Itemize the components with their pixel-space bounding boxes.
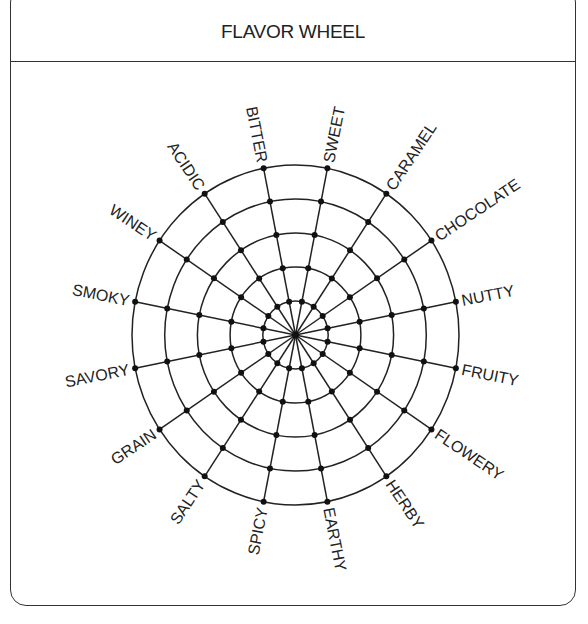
node-fruity-5 <box>453 365 459 371</box>
node-smoky-4 <box>164 305 170 311</box>
node-caramel-4 <box>365 219 371 225</box>
label-flowery: FLOWERY <box>432 426 507 484</box>
node-fruity-3 <box>389 352 395 358</box>
node-salty-2 <box>256 389 262 395</box>
node-nutty-2 <box>357 319 363 325</box>
label-acidic: ACIDIC <box>164 139 208 194</box>
node-herby-2 <box>329 389 335 395</box>
node-nutty-4 <box>421 305 427 311</box>
node-salty-3 <box>238 417 244 423</box>
node-fruity-2 <box>357 345 363 351</box>
node-sweet-5 <box>324 165 330 171</box>
label-caramel: CARAMEL <box>383 120 440 194</box>
node-savory-5 <box>132 365 138 371</box>
node-chocolate-4 <box>401 256 407 262</box>
node-winey-3 <box>211 275 217 281</box>
node-acidic-3 <box>238 247 244 253</box>
node-earthy-4 <box>318 465 324 471</box>
node-smoky-3 <box>196 312 202 318</box>
node-earthy-3 <box>312 432 318 438</box>
node-earthy-5 <box>324 499 330 505</box>
node-bitter-1 <box>286 299 292 305</box>
node-herby-1 <box>311 360 317 366</box>
label-savory: SAVORY <box>64 361 132 390</box>
node-savory-2 <box>228 345 234 351</box>
node-savory-4 <box>164 359 170 365</box>
node-winey-4 <box>184 256 190 262</box>
center-hub <box>292 332 299 339</box>
label-spicy: SPICY <box>245 506 271 557</box>
flavor-wheel: BITTERSWEETCARAMELCHOCOLATENUTTYFRUITYFL… <box>0 0 588 624</box>
label-nutty: NUTTY <box>460 282 516 309</box>
node-salty-1 <box>274 360 280 366</box>
node-nutty-3 <box>389 312 395 318</box>
node-caramel-5 <box>383 191 389 197</box>
label-herby: HERBY <box>383 477 428 533</box>
node-salty-4 <box>220 445 226 451</box>
node-winey-2 <box>238 294 244 300</box>
node-chocolate-1 <box>320 313 326 319</box>
node-savory-1 <box>260 339 266 345</box>
node-bitter-4 <box>267 199 273 205</box>
node-herby-5 <box>383 473 389 479</box>
node-flowery-2 <box>347 370 353 376</box>
node-flowery-1 <box>320 351 326 357</box>
node-acidic-4 <box>220 219 226 225</box>
node-acidic-1 <box>274 304 280 310</box>
node-earthy-1 <box>299 365 305 371</box>
label-grain: GRAIN <box>108 426 160 468</box>
node-flowery-5 <box>428 426 434 432</box>
node-chocolate-3 <box>374 275 380 281</box>
node-herby-3 <box>347 417 353 423</box>
node-salty-5 <box>202 473 208 479</box>
node-sweet-1 <box>299 299 305 305</box>
node-flowery-4 <box>401 408 407 414</box>
node-smoky-1 <box>260 325 266 331</box>
node-sweet-3 <box>312 232 318 238</box>
node-smoky-5 <box>132 299 138 305</box>
node-earthy-2 <box>305 399 311 405</box>
label-salty: SALTY <box>167 476 209 527</box>
node-chocolate-5 <box>428 238 434 244</box>
node-spicy-3 <box>273 432 279 438</box>
node-spicy-1 <box>286 365 292 371</box>
node-winey-5 <box>157 238 163 244</box>
node-grain-2 <box>238 370 244 376</box>
label-smoky: SMOKY <box>71 281 131 309</box>
node-sweet-2 <box>305 265 311 271</box>
label-sweet: SWEET <box>320 105 348 164</box>
label-fruity: FRUITY <box>460 361 520 389</box>
node-fruity-1 <box>325 339 331 345</box>
node-caramel-2 <box>329 275 335 281</box>
node-acidic-5 <box>202 191 208 197</box>
node-chocolate-2 <box>347 294 353 300</box>
node-savory-3 <box>196 352 202 358</box>
label-earthy: EARTHY <box>320 506 349 573</box>
node-grain-4 <box>184 408 190 414</box>
label-bitter: BITTER <box>243 105 271 164</box>
node-nutty-1 <box>325 325 331 331</box>
node-caramel-1 <box>311 304 317 310</box>
node-fruity-4 <box>421 359 427 365</box>
node-winey-1 <box>265 313 271 319</box>
label-winey: WINEY <box>106 201 159 244</box>
node-nutty-5 <box>453 299 459 305</box>
node-bitter-3 <box>273 232 279 238</box>
node-caramel-3 <box>347 247 353 253</box>
label-chocolate: CHOCOLATE <box>432 175 523 244</box>
node-acidic-2 <box>256 275 262 281</box>
node-spicy-2 <box>280 399 286 405</box>
node-bitter-2 <box>280 265 286 271</box>
node-grain-5 <box>157 426 163 432</box>
node-grain-3 <box>211 389 217 395</box>
node-bitter-5 <box>261 165 267 171</box>
node-smoky-2 <box>228 319 234 325</box>
node-grain-1 <box>265 351 271 357</box>
node-flowery-3 <box>374 389 380 395</box>
node-sweet-4 <box>318 199 324 205</box>
node-herby-4 <box>365 445 371 451</box>
node-spicy-4 <box>267 465 273 471</box>
node-spicy-5 <box>261 499 267 505</box>
